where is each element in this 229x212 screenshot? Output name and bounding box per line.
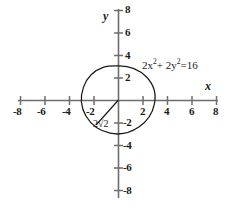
- x-axis-label: x: [205, 80, 211, 92]
- y-tick-label--8: -8: [123, 185, 132, 196]
- equation-part-3: =16: [180, 59, 197, 71]
- x-tick-label-2: 2: [140, 106, 145, 117]
- x-tick-label--4: -4: [62, 106, 71, 117]
- y-tick-label--4: -4: [123, 140, 132, 151]
- y-tick-label-2: 2: [125, 72, 130, 83]
- y-tick-label--2: -2: [123, 117, 132, 128]
- x-tick-label--6: -6: [37, 106, 46, 117]
- x-tick-label-4: 4: [164, 106, 169, 117]
- graph-figure: x y -8 -6 -4 -2 2 4 6 8 8 6 4 2 -2 -4 -6…: [0, 0, 229, 212]
- y-tick-label-4: 4: [125, 50, 130, 61]
- x-tick-label-6: 6: [189, 106, 194, 117]
- y-axis-label: y: [103, 10, 108, 22]
- equation-part-1: 2x: [142, 59, 153, 71]
- equation-annotation: 2x2+ 2y2=16: [142, 60, 198, 71]
- y-tick-label--6: -6: [123, 162, 132, 173]
- y-tick-label-8: 8: [125, 4, 130, 15]
- x-tick-label-8: 8: [213, 106, 218, 117]
- coordinate-plane-svg: [0, 0, 229, 212]
- y-tick-label-6: 6: [125, 27, 130, 38]
- x-tick-label--8: -8: [13, 106, 22, 117]
- radius-radical: √2: [98, 118, 109, 129]
- radius-annotation: 2√2: [93, 119, 109, 129]
- equation-part-2: + 2y: [157, 59, 177, 71]
- x-tick-label--2: -2: [86, 106, 95, 117]
